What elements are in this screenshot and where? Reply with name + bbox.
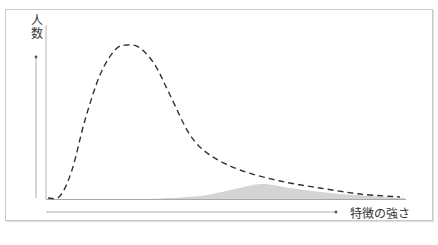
x-axis-arrowhead-icon	[335, 211, 338, 214]
distribution-curve	[48, 45, 400, 199]
subgroup-area	[150, 184, 405, 199]
y-axis-label: 人数	[29, 15, 45, 41]
y-axis-arrowhead-icon	[35, 56, 38, 59]
x-axis-label: 特徴の強さ	[350, 204, 410, 221]
